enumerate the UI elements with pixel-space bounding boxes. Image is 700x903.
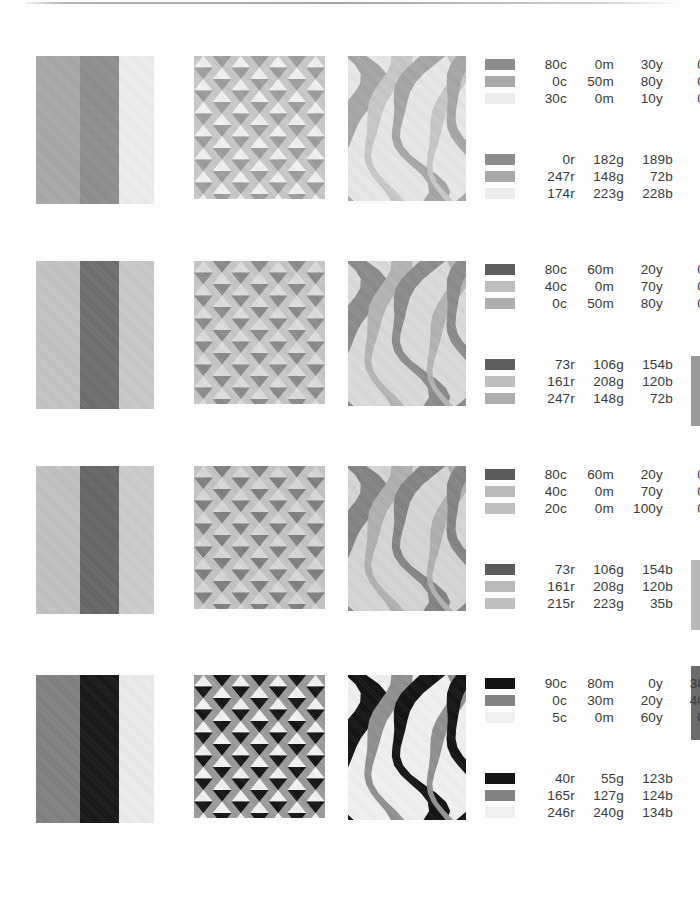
rgb-r-value: 246r <box>527 804 575 821</box>
cmyk-line: 0c50m80y0k <box>485 73 700 90</box>
rgb-chip <box>485 790 515 801</box>
cmyk-m-value: 0m <box>567 500 614 517</box>
cmyk-chip <box>485 93 515 104</box>
cmyk-line: 0c30m20y40k <box>485 692 700 709</box>
cmyk-chip <box>485 695 515 706</box>
cmyk-y-value: 20y <box>614 692 663 709</box>
rgb-g-value: 106g <box>575 356 624 373</box>
rgb-g-value: 55g <box>575 770 624 787</box>
rgb-r-value: 161r <box>527 578 575 595</box>
rgb-g-value: 223g <box>575 595 624 612</box>
rgb-r-value: 247r <box>527 168 575 185</box>
cmyk-y-value: 100y <box>614 500 663 517</box>
cmyk-y-value: 70y <box>614 278 663 295</box>
triangle-pattern-swatch <box>194 56 325 199</box>
cmyk-line: 80c60m20y0k <box>485 466 700 483</box>
rgb-g-value: 182g <box>575 151 624 168</box>
rgb-line: 247r148g72b <box>485 390 673 407</box>
cmyk-k-value: 0k <box>663 73 700 90</box>
paper-grain <box>348 56 466 201</box>
rgb-chip <box>485 171 515 182</box>
cmyk-group: 80c60m20y0k40c0m70y0k20c0m100y0k <box>485 466 700 517</box>
cmyk-line: 30c0m10y0k <box>485 90 700 107</box>
cmyk-values: 80c60m20y0k <box>527 466 700 483</box>
cmyk-k-value: 0k <box>663 295 700 312</box>
cmyk-chip <box>485 298 515 309</box>
flame-pattern-swatch <box>348 261 466 406</box>
rgb-chip <box>485 773 515 784</box>
cmyk-y-value: 0y <box>614 675 663 692</box>
rgb-r-value: 40r <box>527 770 575 787</box>
cmyk-c-value: 20c <box>527 500 567 517</box>
cmyk-values: 90c80m0y30k <box>527 675 700 692</box>
rgb-b-value: 72b <box>624 168 673 185</box>
rgb-chip <box>485 376 515 387</box>
cmyk-values: 80c0m30y0k <box>527 56 700 73</box>
cmyk-k-value: 0k <box>663 278 700 295</box>
rgb-values: 165r127g124b <box>527 787 673 804</box>
rgb-values: 247r148g72b <box>527 390 673 407</box>
cmyk-y-value: 80y <box>614 295 663 312</box>
cmyk-values: 20c0m100y0k <box>527 500 700 517</box>
cmyk-k-value: 30k <box>663 675 700 692</box>
rgb-r-value: 73r <box>527 356 575 373</box>
paper-grain <box>348 466 466 611</box>
cmyk-m-value: 0m <box>567 56 614 73</box>
paper-grain <box>36 466 154 614</box>
cmyk-k-value: 0k <box>663 90 700 107</box>
cmyk-k-value: 0k <box>663 483 700 500</box>
cmyk-line: 40c0m70y0k <box>485 278 700 295</box>
cmyk-y-value: 60y <box>614 709 663 726</box>
cmyk-y-value: 10y <box>614 90 663 107</box>
cmyk-c-value: 80c <box>527 261 567 278</box>
stripe-pattern-swatch <box>36 261 154 409</box>
palette-row-3: 80c60m20y0k40c0m70y0k20c0m100y0k73r106g1… <box>0 466 700 616</box>
cmyk-c-value: 0c <box>527 692 567 709</box>
rgb-b-value: 120b <box>624 373 673 390</box>
flame-pattern-swatch <box>348 675 466 820</box>
rgb-g-value: 208g <box>575 578 624 595</box>
cmyk-k-value: 0k <box>663 500 700 517</box>
cmyk-y-value: 70y <box>614 483 663 500</box>
paper-grain <box>194 675 325 818</box>
rgb-g-value: 148g <box>575 168 624 185</box>
paper-grain <box>36 56 154 204</box>
rgb-r-value: 165r <box>527 787 575 804</box>
rgb-b-value: 228b <box>624 185 673 202</box>
cmyk-chip <box>485 678 515 689</box>
palette-reference-page: 80c0m30y0k0c50m80y0k30c0m10y0k0r182g189b… <box>0 0 700 903</box>
triangle-pattern-swatch <box>194 466 325 609</box>
cmyk-m-value: 0m <box>567 709 614 726</box>
rgb-g-value: 106g <box>575 561 624 578</box>
cmyk-chip <box>485 264 515 275</box>
cmyk-c-value: 40c <box>527 483 567 500</box>
cmyk-chip <box>485 712 515 723</box>
stripe-pattern-swatch <box>36 675 154 823</box>
rgb-chip <box>485 393 515 404</box>
rgb-line: 0r182g189b <box>485 151 673 168</box>
rgb-r-value: 174r <box>527 185 575 202</box>
rgb-line: 247r148g72b <box>485 168 673 185</box>
cmyk-line: 90c80m0y30k <box>485 675 700 692</box>
paper-grain <box>36 261 154 409</box>
cmyk-group: 80c60m20y0k40c0m70y0k0c50m80y0k <box>485 261 700 312</box>
cmyk-m-value: 0m <box>567 278 614 295</box>
cmyk-line: 80c0m30y0k <box>485 56 700 73</box>
rgb-chip <box>485 598 515 609</box>
rgb-values: 161r208g120b <box>527 578 673 595</box>
cmyk-c-value: 80c <box>527 56 567 73</box>
paper-grain <box>194 466 325 609</box>
cmyk-chip <box>485 76 515 87</box>
cmyk-chip <box>485 503 515 514</box>
rgb-line: 174r223g228b <box>485 185 673 202</box>
rgb-values: 174r223g228b <box>527 185 673 202</box>
flame-pattern-swatch <box>348 56 466 201</box>
cmyk-values: 5c0m60y0k <box>527 709 700 726</box>
cmyk-group: 90c80m0y30k0c30m20y40k5c0m60y0k <box>485 675 700 726</box>
cmyk-line: 20c0m100y0k <box>485 500 700 517</box>
cmyk-y-value: 20y <box>614 466 663 483</box>
cmyk-y-value: 30y <box>614 56 663 73</box>
paper-grain <box>348 675 466 820</box>
paper-grain <box>348 261 466 406</box>
cmyk-c-value: 90c <box>527 675 567 692</box>
